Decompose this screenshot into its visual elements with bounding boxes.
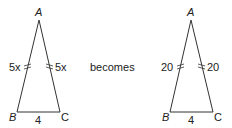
left-vertex-b: B xyxy=(9,111,16,123)
becomes-label: becomes xyxy=(90,61,135,73)
right-triangle: A B C 20 20 4 xyxy=(161,6,222,126)
left-triangle-shape xyxy=(17,20,60,112)
right-vertex-b: B xyxy=(162,111,169,123)
right-vertex-a: A xyxy=(186,6,194,18)
left-vertex-a: A xyxy=(34,6,42,18)
right-tick-ac-icon xyxy=(198,64,205,69)
left-side-bc-label: 4 xyxy=(35,114,41,126)
left-triangle: A B C 5x 5x 4 xyxy=(9,6,69,126)
right-side-ac-label: 20 xyxy=(207,61,219,73)
right-vertex-c: C xyxy=(214,111,222,123)
left-side-ac-label: 5x xyxy=(55,61,67,73)
left-side-ab-label: 5x xyxy=(9,61,21,73)
left-vertex-c: C xyxy=(61,111,69,123)
right-side-bc-label: 4 xyxy=(188,114,194,126)
right-side-ab-label: 20 xyxy=(161,61,173,73)
diagram-canvas: A B C 5x 5x 4 becomes A B C 20 20 4 xyxy=(0,0,232,128)
